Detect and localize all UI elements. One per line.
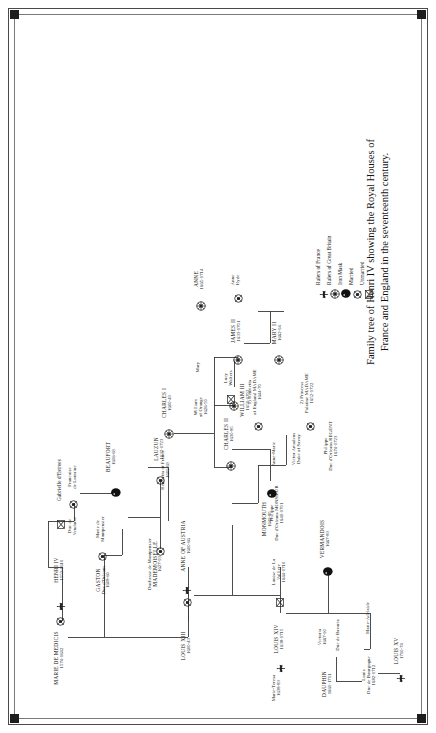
node-louis-duc-de-bourgogne: Louis Duc de Bourgogne 1682-1712: [362, 649, 376, 701]
node-anne: ANNE 1665-1714: [194, 257, 204, 301]
node-victoria: Victoria 1667-90: [318, 619, 327, 655]
node-mary-ii: MARY II 1662-94: [272, 311, 282, 355]
unmarried-icon: [57, 520, 65, 529]
figure-caption: Family tree of Henri IV showing the Roya…: [364, 87, 392, 417]
node-marie-de-montpensier: Marie de Montpensier: [96, 509, 106, 549]
node-gaston: GASTON Duc d'Orleans 1608-60: [96, 559, 111, 601]
node-mademoiselle: Duchesse de Montpensier MADEMOISELLE 162…: [148, 527, 163, 601]
node-james-ii: JAMES II 1633-1701: [231, 307, 241, 355]
node-louis-xv: LOUIS XV 1710-74: [394, 629, 404, 673]
node-francoise-de-lorraine: Francoise de Lorraine: [68, 457, 78, 497]
iron-mask-icon-beaufort: [110, 487, 121, 498]
iron-mask-icon-monmouth: [266, 488, 277, 499]
crown-gb-icon-charles-ii: [226, 461, 236, 471]
caption-line-1: Family tree of Henri IV showing the Roya…: [364, 87, 378, 417]
married-icon-legend: [348, 288, 358, 299]
married-icon-louis-xiii: [183, 598, 192, 607]
node-vermandois: VERMANDOIS 1667-83: [320, 513, 330, 565]
married-icon-henrietta-england: [254, 422, 263, 431]
node-louis-xiv: LOUIS XIV 1638-1715: [274, 615, 284, 663]
married-icon-anne-hyde: [234, 294, 243, 303]
node-anne-of-austria: ANNE OF AUSTRIA 1600-66: [181, 507, 191, 585]
married-icon: [56, 617, 65, 626]
family-tree-plate: MARIE DE MEDICIS 1574-1642 HENRI IV 1553…: [18, 17, 418, 717]
legend-label: Rulers of France: [315, 249, 321, 285]
fleur-de-lys-icon-anne: [182, 586, 192, 595]
node-henrietta-of-france: Henrietta of France 1609-69: [161, 439, 170, 501]
crown-gb-icon-anne: [196, 301, 206, 311]
fleur-de-lys-icon: [56, 602, 66, 611]
node-mary-princess-royal: Mary: [196, 353, 201, 381]
iron-mask-icon-legend: [337, 288, 347, 299]
node-louis-xiii: LOUIS XIII 1600-43: [181, 621, 191, 671]
node-duc-de-vendome: Duc de Vendome: [68, 511, 78, 541]
crown-gb-icon-charles-i: [164, 429, 174, 439]
node-duc-de-bavaria: Duc de Bavaria: [336, 611, 341, 659]
node-anne-hyde: Anne Hyde: [231, 267, 241, 293]
node-philippe-regent: Philippe Duc d'Orleans REGENT 1674-1723: [324, 417, 338, 475]
legend-label: Married: [348, 267, 354, 284]
node-william-iii: WILLIAM III 1650-1702: [240, 371, 250, 429]
node-princess-palatine: 2) Princess Palatine MADAME 1652-1722: [300, 366, 314, 420]
node-charles-ii: CHARLES II 1630-85: [224, 407, 234, 461]
legend-label: Rulers of Great Britain: [326, 235, 332, 285]
fleur-de-lys-icon-legend: [315, 288, 325, 299]
book-page: MARIE DE MEDICIS 1574-1642 HENRI IV 1553…: [0, 0, 436, 733]
node-anne-marie: Anne-Marie: [272, 433, 277, 475]
legend-label: Iron Mask: [337, 262, 343, 284]
crown-gb-icon-james-ii: [233, 355, 243, 365]
node-henri-iv: HENRI IV 1553-1610: [54, 539, 64, 601]
node-dauphin: DAUPHIN 1661-1711: [322, 661, 332, 707]
node-monmouth: MONMOUTH 1649-85: [262, 499, 272, 539]
node-gabrielle-destrees: Gabrielle d'Estrees: [57, 443, 62, 517]
node-victor-amadeus: Victor Amadeus Duke of Savoy: [292, 421, 302, 477]
fleur-de-lys-icon-louis-xv: [396, 674, 406, 683]
node-lucy-walters: Lucy Walters: [224, 363, 234, 393]
unmarried-icon-la-valliere: [276, 598, 284, 607]
node-marie-teresa: Marie-Teresa 1638-83: [272, 667, 281, 709]
node-beaufort: BEAUFORT 1616-69: [106, 429, 116, 485]
tree-connector-lines-lower: [18, 17, 418, 717]
iron-mask-icon-vermandois: [322, 566, 333, 577]
crown-gb-icon-legend: [326, 288, 336, 299]
node-charles-i: CHARLES I 1600-49: [162, 377, 172, 429]
married-icon-palatine: [306, 422, 315, 431]
caption-line-2: France and England in the seventeenth ce…: [378, 87, 392, 417]
node-marie-adelaide: Marie-Adelaide: [366, 593, 371, 643]
crown-gb-icon-mary-ii: [274, 355, 284, 365]
married-icon-vendome: [69, 500, 78, 509]
crown-gb-icon-william-iii: [229, 401, 239, 411]
rotated-plate-wrapper: MARIE DE MEDICIS 1574-1642 HENRI IV 1553…: [0, 0, 436, 733]
tree-nodes: MARIE DE MEDICIS 1574-1642 HENRI IV 1553…: [18, 17, 418, 717]
node-marie-de-medicis: MARIE DE MEDICIS 1574-1642: [54, 619, 64, 697]
node-louise-de-la-valliere: Louise de La Valliere 1644-1710: [272, 548, 286, 596]
node-william-of-orange: William of Orange 1626-50: [194, 387, 208, 427]
